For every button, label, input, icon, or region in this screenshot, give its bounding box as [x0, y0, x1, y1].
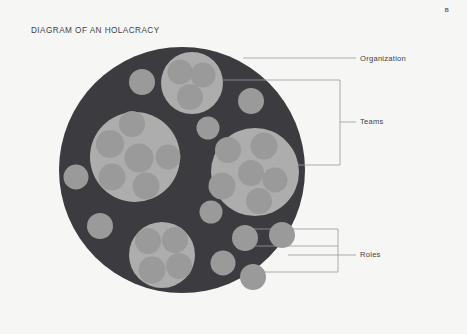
- role-circle: [209, 173, 236, 200]
- role-circle: [200, 201, 223, 224]
- role-circle: [197, 117, 220, 140]
- role-circle: [191, 63, 216, 88]
- role-circle: [125, 144, 154, 173]
- team-group-bottom: [129, 222, 195, 288]
- legend-label-organization: Organization: [360, 55, 406, 63]
- role-circle: [96, 130, 124, 158]
- role-circle: [133, 173, 160, 200]
- role-circle: [156, 145, 181, 170]
- role-circle: [162, 227, 188, 253]
- role-circle: [246, 188, 272, 214]
- role-circle: [215, 137, 241, 163]
- role-circle: [269, 222, 295, 248]
- role-circle: [211, 251, 236, 276]
- legend-label-roles: Roles: [360, 251, 381, 259]
- role-circle: [87, 213, 113, 239]
- role-circle: [263, 168, 288, 193]
- diagram-page: B DIAGRAM OF AN HOLACRACY: [0, 0, 467, 334]
- role-circle: [119, 111, 145, 137]
- role-circle: [99, 164, 126, 191]
- role-circle: [168, 60, 193, 85]
- role-circle: [64, 165, 89, 190]
- role-circle: [177, 84, 203, 110]
- role-circle: [135, 228, 161, 254]
- role-circle: [166, 253, 192, 279]
- holacracy-diagram: [0, 0, 467, 334]
- role-circle: [240, 264, 266, 290]
- legend-label-teams: Teams: [360, 118, 384, 126]
- role-circle: [139, 257, 166, 284]
- team-group-top: [161, 52, 223, 114]
- role-circle: [251, 133, 278, 160]
- role-circle: [238, 160, 264, 186]
- role-circle: [129, 69, 155, 95]
- role-circle: [238, 88, 264, 114]
